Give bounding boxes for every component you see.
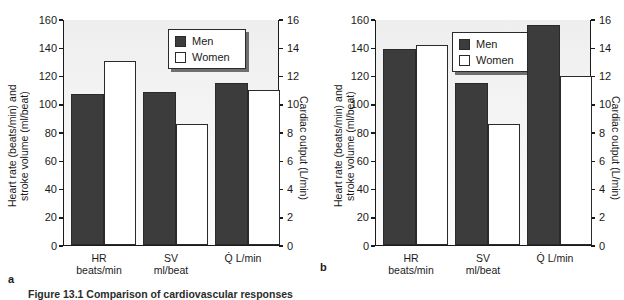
bar-men-hrbeatsmin [71,94,104,245]
y-tick-mark-left [371,48,375,50]
y-tick-label-left: 100 [333,99,369,110]
legend-swatch-women-icon [175,52,186,63]
y-tick-label-left: 0 [333,241,369,252]
y-tick-label-right: 6 [287,156,311,167]
y-tick-label-left: 20 [21,212,57,223]
y-tick-mark-left [59,217,63,219]
legend-b: Men Women [452,32,532,72]
y-tick-mark-left [371,189,375,191]
y-tick-mark-left [59,19,63,21]
y-tick-mark-left [59,76,63,78]
y-tick-mark-right [591,245,595,247]
y-tick-mark-left [371,161,375,163]
y-tick-label-right: 14 [287,43,311,54]
y-tick-mark-left [59,161,63,163]
chart-panel-a: Heart rate (beats/min) and stroke volume… [0,0,312,292]
y-tick-label-right: 8 [599,128,623,139]
bar-men-svmlbeat [143,92,176,245]
bar-men-qlmin [215,83,248,245]
y-tick-mark-left [59,245,63,247]
y-tick-mark-left [371,245,375,247]
bar-women-svmlbeat [176,124,209,245]
panel-letter-b: b [320,262,327,273]
y-tick-mark-left [59,48,63,50]
x-axis-label: Q̇ L/min [505,252,605,264]
y-tick-label-left: 80 [21,128,57,139]
bar-men-hrbeatsmin [383,49,416,245]
y-tick-label-left: 120 [21,71,57,82]
legend-row-men-b: Men [459,37,524,51]
y-tick-label-right: 16 [287,15,311,26]
legend-label-women-a: Women [192,52,230,63]
y-tick-label-right: 12 [287,71,311,82]
y-tick-label-left: 100 [21,99,57,110]
y-tick-mark-left [59,132,63,134]
y-tick-label-right: 10 [599,99,623,110]
bar-women-qlmin [560,76,593,246]
y-tick-mark-left [371,132,375,134]
y-tick-mark-left [371,217,375,219]
y-tick-mark-left [59,104,63,106]
legend-swatch-men-icon [175,36,186,47]
y-tick-mark-right [591,19,595,21]
y-tick-mark-right [279,76,283,78]
y-tick-mark-right [279,48,283,50]
bar-women-hrbeatsmin [416,45,449,245]
y-tick-label-right: 12 [599,71,623,82]
legend-row-women-b: Women [459,53,524,67]
y-tick-mark-right [279,245,283,247]
panel-letter-a: a [8,274,14,285]
y-tick-mark-left [371,76,375,78]
y-tick-label-right: 2 [599,212,623,223]
x-axis-label: Q̇ L/min [193,252,293,264]
y-tick-label-right: 2 [287,212,311,223]
legend-a: Men Women [168,29,246,69]
y-tick-label-right: 10 [287,99,311,110]
bar-women-hrbeatsmin [104,61,137,245]
y-tick-mark-right [591,48,595,50]
bar-men-svmlbeat [455,83,488,245]
legend-label-men-b: Men [476,39,497,50]
y-tick-label-right: 8 [287,128,311,139]
y-tick-label-right: 14 [599,43,623,54]
y-tick-label-left: 20 [333,212,369,223]
y-tick-label-left: 120 [333,71,369,82]
legend-swatch-men-icon [459,39,470,50]
legend-label-women-b: Women [476,55,514,66]
y-tick-label-left: 40 [333,184,369,195]
bar-women-qlmin [248,90,281,245]
y-tick-label-left: 40 [21,184,57,195]
y-tick-mark-left [371,104,375,106]
y-tick-label-right: 16 [599,15,623,26]
figure-caption: Figure 13.1 Comparison of cardiovascular… [28,288,608,300]
y-tick-label-right: 6 [599,156,623,167]
legend-row-women-a: Women [175,50,238,64]
y-tick-label-right: 0 [599,241,623,252]
y-tick-label-left: 140 [333,43,369,54]
y-tick-label-left: 140 [21,43,57,54]
y-tick-label-left: 80 [333,128,369,139]
bar-men-qlmin [527,25,560,245]
y-tick-label-right: 4 [599,184,623,195]
legend-swatch-women-icon [459,55,470,66]
y-tick-label-left: 0 [21,241,57,252]
y-tick-mark-left [371,19,375,21]
legend-label-men-a: Men [192,36,213,47]
y-tick-mark-left [59,189,63,191]
y-tick-label-right: 4 [287,184,311,195]
y-tick-label-left: 60 [21,156,57,167]
y-tick-label-left: 160 [21,15,57,26]
y-tick-label-left: 60 [333,156,369,167]
chart-panel-b: Heart rate (beats/min) and stroke volume… [312,0,624,292]
bar-women-svmlbeat [488,124,521,245]
y-tick-mark-right [279,19,283,21]
y-tick-label-left: 160 [333,15,369,26]
y-tick-label-right: 0 [287,241,311,252]
legend-row-men-a: Men [175,34,238,48]
